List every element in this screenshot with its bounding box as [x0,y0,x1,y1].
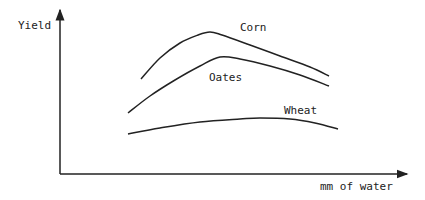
y-axis-label: Yield [18,19,51,32]
corn-label: Corn [240,21,267,34]
wheat-curve [128,118,338,134]
oates-label: Oates [209,71,242,84]
x-axis-label: mm of water [320,180,393,193]
wheat-label: Wheat [284,104,317,117]
yield-chart: Yield mm of water Corn Oates Wheat [0,0,425,200]
